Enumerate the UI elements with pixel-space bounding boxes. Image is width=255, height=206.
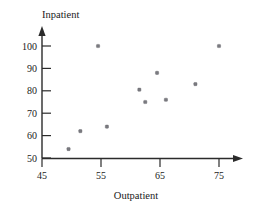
- y-tick-label-100: 100: [22, 41, 37, 52]
- data-point: [105, 125, 108, 128]
- y-tick-label-70: 70: [27, 108, 37, 119]
- data-point: [96, 44, 99, 47]
- x-tick-labels: 45 55 65 75: [37, 170, 224, 181]
- plot-canvas: 100 90 80 70 60 50 45 55 65 75 Inpatient…: [0, 0, 255, 206]
- x-tick-label-65: 65: [155, 170, 165, 181]
- y-tick-label-50: 50: [27, 153, 37, 164]
- data-points-layer: [67, 44, 221, 150]
- x-axis-title: Outpatient: [114, 190, 158, 201]
- y-axis-ticks: [42, 46, 51, 158]
- data-point: [144, 100, 147, 103]
- scatter-plot-figure: 100 90 80 70 60 50 45 55 65 75 Inpatient…: [0, 0, 255, 206]
- x-axis-ticks: [42, 159, 219, 168]
- data-point: [138, 88, 141, 91]
- data-point: [155, 71, 158, 74]
- y-tick-label-80: 80: [27, 85, 37, 96]
- arrow-right-icon: [233, 155, 243, 162]
- data-point: [79, 130, 82, 133]
- y-tick-labels: 100 90 80 70 60 50: [22, 41, 37, 164]
- x-axis: [42, 155, 243, 162]
- x-tick-label-55: 55: [96, 170, 106, 181]
- data-point: [67, 147, 70, 150]
- x-tick-label-45: 45: [37, 170, 47, 181]
- data-point: [194, 82, 197, 85]
- y-tick-label-90: 90: [27, 63, 37, 74]
- y-tick-label-60: 60: [27, 130, 37, 141]
- data-point: [164, 98, 167, 101]
- data-point: [217, 44, 220, 47]
- y-axis-title: Inpatient: [42, 9, 79, 20]
- arrow-up-icon: [38, 26, 45, 36]
- x-tick-label-75: 75: [214, 170, 224, 181]
